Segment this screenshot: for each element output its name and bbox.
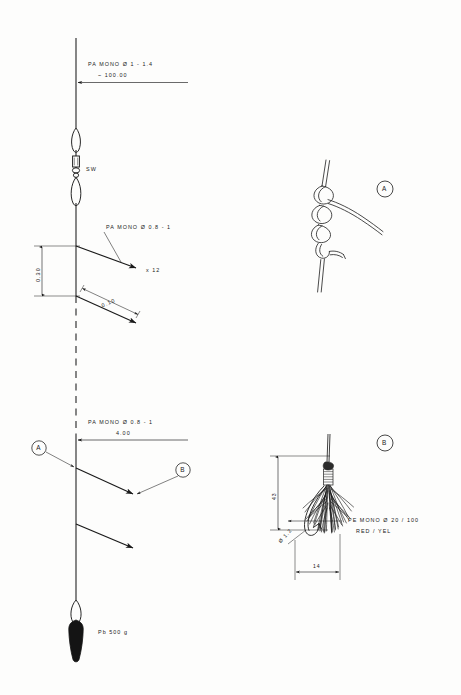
callout-b-letter: B [180, 466, 185, 473]
rig-diagram-svg [0, 0, 461, 695]
detail-b-color-label: RED / YEL [356, 527, 391, 535]
sinker-label: Pb 500 g [98, 628, 128, 636]
detail-b-height-label: 43 [271, 492, 279, 500]
snood-spec-label: PA MONO Ø 0.8 - 1 [106, 223, 171, 231]
drawing-sheet: PA MONO Ø 1 - 1.4 ~ 100.00 SW PA MONO Ø … [0, 0, 461, 695]
detail-a-caption: A [382, 185, 387, 192]
lower-section-length-label: 4.00 [116, 429, 131, 437]
mainline-length-label: ~ 100.00 [98, 71, 128, 79]
detail-b-caption: B [382, 439, 387, 446]
snood-branches [76, 232, 136, 548]
detail-b-width-label: 14 [313, 563, 321, 571]
detail-b-lure-drawing [303, 434, 354, 535]
lower-section-spec-label: PA MONO Ø 0.8 - 1 [88, 418, 153, 426]
snood-count-label: x 12 [146, 266, 160, 274]
callout-a-letter: A [36, 444, 41, 451]
spacing-dimension-label: 0.30 [34, 267, 42, 282]
mainline-spec-label: PA MONO Ø 1 - 1.4 [88, 60, 153, 68]
sinker-group [69, 600, 83, 662]
detail-b-material-label: PE MONO Ø 20 / 100 [348, 516, 419, 524]
swivel-label: SW [86, 165, 97, 173]
mainline-group [71, 38, 81, 600]
detail-a-knot-drawing [311, 160, 383, 292]
detail-b-width-dimension [295, 534, 340, 580]
